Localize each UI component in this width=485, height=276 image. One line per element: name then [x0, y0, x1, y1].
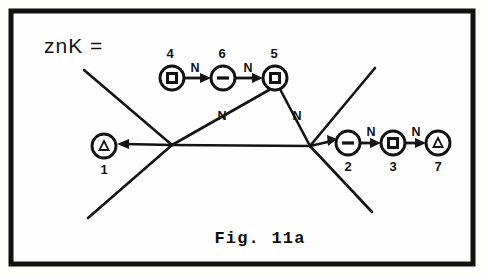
- figure-caption: Fig. 11a: [214, 229, 305, 248]
- junction-connector: [172, 145, 310, 146]
- expression-label: znK =: [44, 34, 103, 57]
- node-2-label: 2: [344, 159, 351, 174]
- edge-label-n-4: N: [292, 109, 301, 123]
- edge-label-n-5: N: [366, 125, 375, 139]
- figure-panel: 1 2 3 4 5: [0, 0, 485, 276]
- edge-label-n-1: N: [190, 61, 199, 75]
- node-5-label: 5: [270, 46, 277, 61]
- edge-label-n-2: N: [243, 61, 252, 75]
- node-6-label: 6: [218, 46, 225, 61]
- square-icon-inner: [272, 75, 278, 81]
- arrow-to-node1-line: [124, 144, 172, 145]
- figure-canvas: 1 2 3 4 5: [0, 0, 485, 276]
- node-1-label: 1: [100, 162, 107, 177]
- edge-label-n-3: N: [217, 109, 226, 123]
- edge-label-n-6: N: [411, 125, 420, 139]
- node-3-label: 3: [389, 159, 396, 174]
- square-icon-inner: [169, 75, 175, 81]
- node-4-label: 4: [166, 46, 174, 61]
- node-7-label: 7: [434, 159, 441, 174]
- square-icon-inner: [390, 140, 396, 146]
